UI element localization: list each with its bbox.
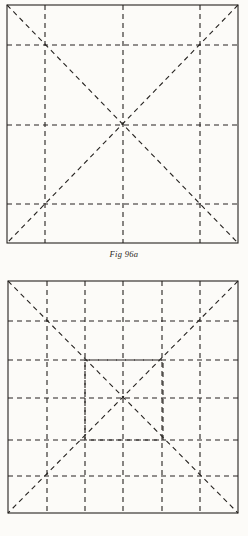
figure-96a-drawing — [0, 0, 248, 248]
figure-96b: Fig 96b — [0, 268, 248, 536]
figure-96a-caption: Fig 96a — [0, 249, 248, 259]
plate-page: Fig 96a Fig 96b — [0, 0, 248, 536]
figure-96b-drawing — [0, 268, 248, 516]
figure-96a: Fig 96a — [0, 0, 248, 268]
inner-square-0 — [85, 360, 163, 440]
